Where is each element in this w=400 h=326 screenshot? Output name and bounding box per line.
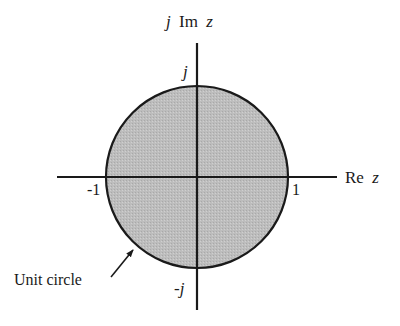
tick-label-j: j [181, 62, 188, 81]
imag-label-j: j [164, 12, 171, 31]
imag-label-z: z [205, 12, 213, 31]
annotation-arrow [111, 250, 133, 277]
tick-label-minus-j: -j [174, 279, 185, 298]
real-label-re: Re [345, 168, 364, 187]
tick-label-minus-1: -1 [87, 181, 100, 198]
tick-label-1: 1 [292, 181, 300, 198]
unit-circle-diagram: j Im z Re z j -j -1 1 Unit circle [0, 0, 400, 326]
imag-label-im: Im [179, 12, 198, 31]
unit-circle-label: Unit circle [14, 271, 82, 288]
real-label-z: z [371, 168, 379, 187]
imaginary-axis-label: j Im z [164, 12, 213, 31]
real-axis-label: Re z [345, 168, 379, 187]
